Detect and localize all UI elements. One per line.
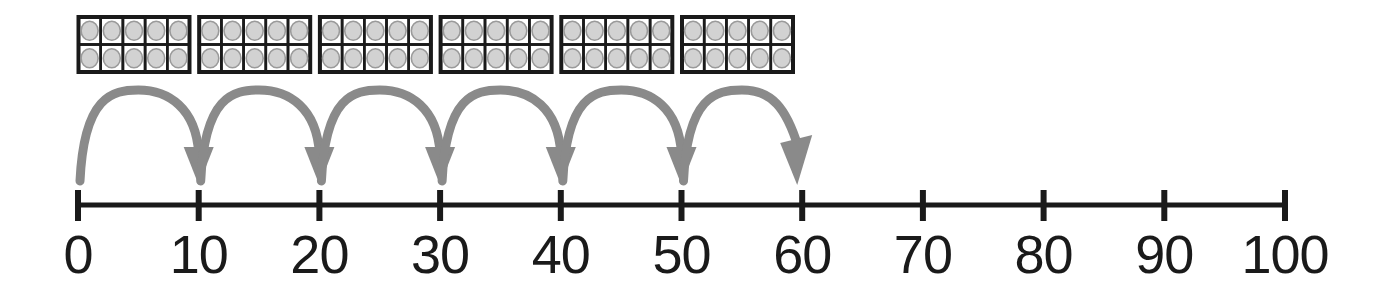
counter <box>81 21 98 40</box>
counter <box>323 21 340 40</box>
counter <box>465 21 482 40</box>
tick-label-50: 50 <box>652 224 710 284</box>
tick-label-70: 70 <box>894 224 952 284</box>
counter <box>224 21 241 40</box>
counter <box>608 21 625 40</box>
jump-0-to-10 <box>80 90 214 185</box>
counter <box>564 21 581 40</box>
counter <box>653 21 670 40</box>
tick-label-20: 20 <box>290 224 348 284</box>
arc-path <box>321 90 440 181</box>
tick-label-30: 30 <box>411 224 469 284</box>
tick-label-80: 80 <box>1015 224 1073 284</box>
counter <box>246 49 263 68</box>
jump-10-to-20 <box>201 90 335 185</box>
counter <box>148 21 165 40</box>
arrowhead <box>780 135 812 185</box>
counter <box>653 49 670 68</box>
counter <box>707 49 724 68</box>
counter <box>126 49 143 68</box>
counter <box>411 49 428 68</box>
arc-path <box>80 90 199 181</box>
ten-frame-1 <box>79 17 190 72</box>
counter <box>126 21 143 40</box>
jump-30-to-40 <box>442 90 576 185</box>
counter <box>443 49 460 68</box>
counter <box>389 49 406 68</box>
tick-label-100: 100 <box>1241 224 1328 284</box>
counter <box>224 49 241 68</box>
counter <box>148 49 165 68</box>
skip-counting-diagram: 0102030405060708090100 <box>0 0 1391 296</box>
counter <box>532 49 549 68</box>
counter <box>488 49 505 68</box>
counter <box>291 49 308 68</box>
counter <box>751 21 768 40</box>
ten-frame-6 <box>682 17 793 72</box>
tick-label-0: 0 <box>63 224 92 284</box>
counter <box>170 49 187 68</box>
counter <box>268 49 285 68</box>
counter <box>685 49 702 68</box>
jump-50-to-60 <box>684 90 813 185</box>
tick-label-60: 60 <box>773 224 831 284</box>
tick-label-40: 40 <box>532 224 590 284</box>
arc-path <box>563 90 682 181</box>
counter <box>608 49 625 68</box>
counter <box>202 21 219 40</box>
counter <box>345 49 362 68</box>
counter <box>510 49 527 68</box>
skip-jump-arcs-group <box>80 90 812 185</box>
counter <box>773 21 790 40</box>
jump-40-to-50 <box>563 90 697 185</box>
counter <box>751 49 768 68</box>
counter <box>586 21 603 40</box>
tick-label-10: 10 <box>170 224 228 284</box>
counter <box>773 49 790 68</box>
counter <box>564 49 581 68</box>
counter <box>685 21 702 40</box>
counter <box>465 49 482 68</box>
counter <box>367 21 384 40</box>
counter <box>103 21 120 40</box>
counter <box>170 21 187 40</box>
counter <box>367 49 384 68</box>
counter <box>707 21 724 40</box>
counter <box>389 21 406 40</box>
arc-path <box>201 90 320 181</box>
counter <box>411 21 428 40</box>
counter <box>510 21 527 40</box>
ten-frames-group <box>79 17 794 72</box>
ten-frame-5 <box>561 17 672 72</box>
tick-label-90: 90 <box>1135 224 1193 284</box>
counter <box>631 49 648 68</box>
counter <box>729 21 746 40</box>
counter <box>488 21 505 40</box>
counter <box>532 21 549 40</box>
number-line-labels: 0102030405060708090100 <box>63 224 1328 284</box>
ten-frame-4 <box>441 17 552 72</box>
ten-frame-2 <box>199 17 310 72</box>
arc-path <box>684 90 799 181</box>
counter <box>443 21 460 40</box>
diagram-canvas: 0102030405060708090100 <box>0 0 1391 296</box>
counter <box>586 49 603 68</box>
counter <box>268 21 285 40</box>
counter <box>291 21 308 40</box>
counter <box>81 49 98 68</box>
counter <box>246 21 263 40</box>
counter <box>345 21 362 40</box>
counter <box>729 49 746 68</box>
arc-path <box>442 90 561 181</box>
counter <box>631 21 648 40</box>
counter <box>103 49 120 68</box>
counter <box>323 49 340 68</box>
counter <box>202 49 219 68</box>
ten-frame-3 <box>320 17 431 72</box>
jump-20-to-30 <box>321 90 455 185</box>
